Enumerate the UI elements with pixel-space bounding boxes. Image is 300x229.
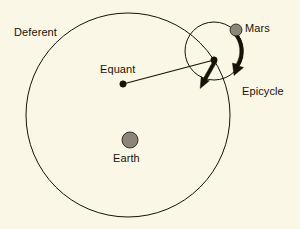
mars-body (230, 24, 242, 36)
earth-label: Earth (113, 153, 140, 164)
epicycle-center-point (211, 57, 217, 63)
epicycle-label: Epicycle (242, 86, 284, 97)
equant-label: Equant (100, 64, 135, 75)
deferent-label: Deferent (14, 27, 57, 38)
ptolemaic-model-diagram: Deferent Equant Earth Mars Epicycle (0, 0, 300, 229)
mars-label: Mars (245, 23, 270, 34)
equant-point (120, 81, 126, 87)
earth-body (122, 132, 138, 148)
